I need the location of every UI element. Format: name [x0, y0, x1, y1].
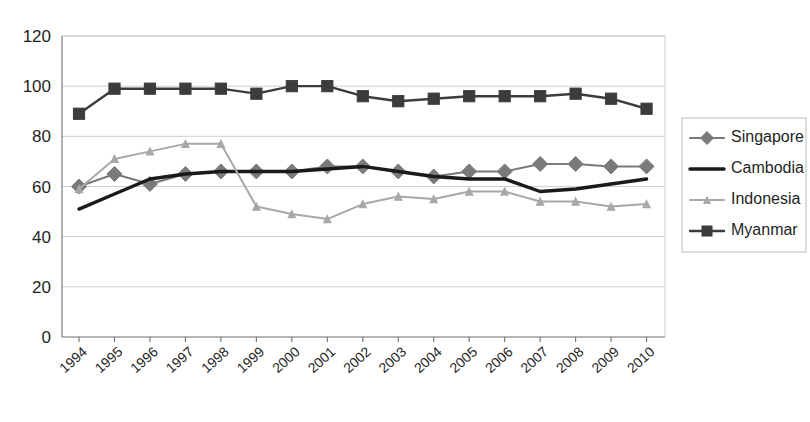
data-point-marker [499, 91, 510, 102]
x-tick-label: 1998 [198, 343, 232, 376]
data-point-marker [641, 103, 652, 114]
x-tick-label: 2009 [588, 343, 622, 376]
data-point-marker [568, 156, 583, 171]
data-point-marker [322, 81, 333, 92]
x-tick-label: 1994 [56, 343, 90, 376]
data-point-marker [144, 83, 155, 94]
y-tick-label: 40 [32, 228, 51, 247]
data-point-marker [73, 108, 84, 119]
x-tick-label: 2004 [411, 343, 445, 376]
data-point-marker [604, 159, 619, 174]
legend-item-label: Cambodia [731, 159, 804, 176]
x-tick-label: 1995 [92, 343, 126, 376]
x-tick-label: 2010 [624, 343, 658, 376]
y-tick-label: 60 [32, 178, 51, 197]
y-tick-label: 120 [23, 27, 51, 46]
data-point-marker [464, 91, 475, 102]
data-point-marker [605, 93, 616, 104]
x-tick-label: 2006 [482, 343, 516, 376]
data-point-marker [533, 156, 548, 171]
x-tick-label: 2007 [517, 343, 551, 376]
x-tick-label: 2008 [553, 343, 587, 376]
y-tick-label: 20 [32, 278, 51, 297]
data-point-marker [180, 83, 191, 94]
x-tick-label: 2005 [446, 343, 480, 376]
x-tick-label: 2001 [304, 343, 338, 376]
legend-item-label: Myanmar [731, 221, 798, 238]
y-tick-label: 0 [42, 328, 51, 347]
legend-item-label: Singapore [731, 128, 804, 145]
y-tick-label: 100 [23, 77, 51, 96]
x-tick-label: 1997 [163, 343, 197, 376]
x-tick-label: 2000 [269, 343, 303, 376]
y-axis-tick-labels: 020406080100120 [23, 27, 51, 347]
data-point-marker [570, 88, 581, 99]
chart-series-layer [72, 81, 655, 223]
y-tick-label: 80 [32, 127, 51, 146]
legend-swatch-marker [702, 226, 712, 236]
data-point-marker [535, 91, 546, 102]
data-point-marker [428, 93, 439, 104]
data-point-marker [251, 88, 262, 99]
data-point-marker [462, 164, 477, 179]
x-tick-label: 2002 [340, 343, 374, 376]
data-point-marker [109, 83, 120, 94]
data-point-marker [497, 164, 512, 179]
data-point-marker [215, 83, 226, 94]
data-point-marker [357, 91, 368, 102]
x-tick-label: 2003 [375, 343, 409, 376]
x-axis-tick-labels: 1994199519961997199819992000200120022003… [56, 343, 658, 376]
line-chart-figure: 020406080100120 199419951996199719981999… [0, 0, 810, 422]
data-point-marker [320, 159, 335, 174]
data-point-marker [639, 159, 654, 174]
x-tick-label: 1996 [127, 343, 161, 376]
x-axis-ticks [79, 337, 647, 342]
chart-legend: SingaporeCambodiaIndonesiaMyanmar [682, 118, 806, 252]
data-point-marker [107, 166, 122, 181]
data-point-marker [393, 96, 404, 107]
legend-item-label: Indonesia [731, 190, 800, 207]
data-point-marker [286, 81, 297, 92]
x-tick-label: 1999 [234, 343, 268, 376]
